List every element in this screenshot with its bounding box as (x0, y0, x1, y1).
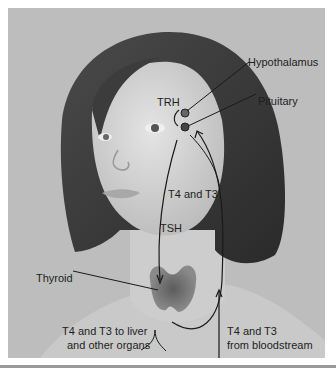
label-from-blood-1: T4 and T3 (227, 325, 277, 338)
illustration-frame: Hypothalamus Pituitary TRH T4 and T3 TSH… (8, 8, 325, 358)
bottom-rule (0, 365, 336, 368)
label-to-organs-2: and other organs (67, 339, 150, 352)
label-to-organs-1: T4 and T3 to liver (62, 325, 147, 338)
label-tsh: TSH (160, 222, 182, 235)
label-t4-t3-feedback: T4 and T3 (168, 188, 218, 201)
label-trh: TRH (157, 96, 180, 109)
label-from-blood-2: from bloodstream (227, 339, 313, 352)
label-thyroid: Thyroid (36, 272, 73, 285)
label-hypothalamus: Hypothalamus (248, 56, 318, 69)
label-pituitary: Pituitary (258, 95, 298, 108)
pituitary-marker (181, 123, 189, 131)
